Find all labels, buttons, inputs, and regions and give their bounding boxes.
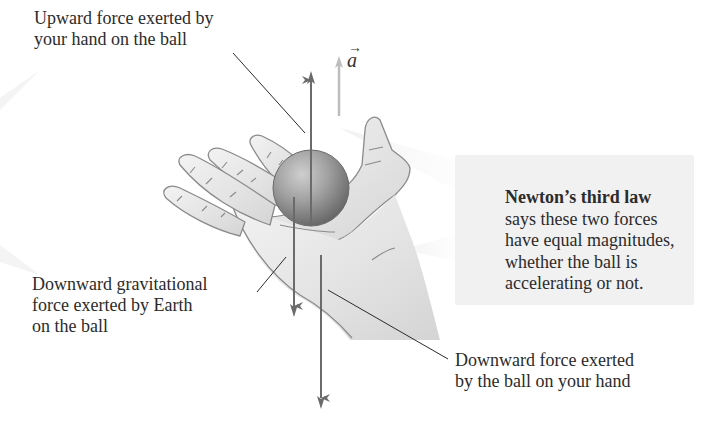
acceleration-vector bbox=[335, 56, 343, 116]
newtons-third-law-callout: Newton’s third law says these two forces… bbox=[455, 155, 694, 305]
label-line: Downward force exerted bbox=[455, 350, 634, 371]
gravitational-force-label: Downward gravitational force exerted by … bbox=[32, 274, 207, 337]
label-line: force exerted by Earth bbox=[32, 295, 207, 316]
vector-arrow-icon: → bbox=[348, 40, 362, 56]
callout-line: says these two forces bbox=[505, 209, 674, 231]
callout-line: accelerating or not. bbox=[505, 273, 674, 295]
callout-title: Newton’s third law bbox=[505, 187, 674, 209]
label-line: Downward gravitational bbox=[32, 274, 207, 295]
acceleration-label: → a bbox=[347, 49, 357, 72]
label-line: your hand on the ball bbox=[34, 29, 213, 50]
callout-text: Newton’s third law says these two forces… bbox=[505, 187, 674, 295]
label-line: by the ball on your hand bbox=[455, 371, 634, 392]
upward-leader bbox=[233, 53, 305, 133]
callout-line: whether the ball is bbox=[505, 252, 674, 274]
label-line: Upward force exerted by bbox=[34, 8, 213, 29]
label-line: on the ball bbox=[32, 316, 207, 337]
callout-line: have equal magnitudes, bbox=[505, 230, 674, 252]
ball-on-hand-force-label: Downward force exerted by the ball on yo… bbox=[455, 350, 634, 392]
upward-force-label: Upward force exerted by your hand on the… bbox=[34, 8, 213, 50]
